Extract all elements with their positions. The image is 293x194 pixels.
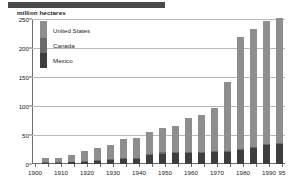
x-tick-mark: [74, 164, 75, 167]
x-tick-label: 1920: [80, 169, 94, 176]
x-tick-mark: [243, 164, 244, 167]
x-tick-mark: [152, 164, 153, 167]
x-tick-mark: [48, 164, 49, 167]
bar-segment-mexico: [211, 152, 218, 164]
x-tick-mark: [217, 164, 218, 167]
bar-1930: [107, 145, 114, 164]
x-tick-label: 1910: [54, 169, 68, 176]
x-tick-label: 1990: [262, 169, 276, 176]
bar-segment-united-states: [133, 138, 140, 158]
bar-segment-united-states: [107, 145, 114, 159]
x-tick-label: 95: [279, 169, 286, 176]
y-tick-label: 150: [7, 74, 29, 81]
bar-segment-united-states: [198, 115, 205, 152]
bar-segment-united-states: [263, 21, 270, 145]
bar-segment-united-states: [237, 37, 244, 149]
bar-1950: [159, 128, 166, 164]
bar-segment-mexico: [159, 154, 166, 164]
x-tick-mark: [269, 164, 270, 167]
bar-1915: [68, 155, 75, 164]
y-tick-label: 100: [7, 103, 29, 110]
bar-1945: [146, 132, 153, 164]
x-tick-label: 1970: [210, 169, 224, 176]
bar-segment-mexico: [276, 144, 283, 164]
bar-1990: [263, 21, 270, 164]
bar-1925: [94, 148, 101, 164]
x-tick-mark: [100, 164, 101, 167]
legend-swatch-mexico: [40, 53, 47, 68]
x-tick-mark: [139, 164, 140, 167]
bar-segment-united-states: [94, 148, 101, 160]
legend-label-united-states: United States: [53, 27, 90, 34]
bar-segment-united-states: [146, 132, 153, 154]
x-tick-mark: [35, 164, 36, 167]
bar-1935: [120, 139, 127, 164]
bar-segment-mexico: [146, 155, 153, 164]
bar-1985: [250, 29, 257, 164]
y-tick-label: 0: [7, 161, 29, 168]
x-tick-label: 1930: [106, 169, 120, 176]
bar-1975: [224, 82, 231, 164]
x-tick-mark: [191, 164, 192, 167]
x-tick-mark: [61, 164, 62, 167]
x-tick-label: 1950: [158, 169, 172, 176]
bar-segment-mexico: [198, 153, 205, 164]
legend-swatch-canada: [40, 38, 47, 53]
x-tick-mark: [230, 164, 231, 167]
x-tick-mark: [256, 164, 257, 167]
x-tick-mark: [282, 164, 283, 167]
bar-1970: [211, 108, 218, 164]
x-tick-mark: [126, 164, 127, 167]
x-tick-label: 1980: [236, 169, 250, 176]
x-tick-mark: [165, 164, 166, 167]
x-tick-label: 1900: [28, 169, 42, 176]
bar-segment-united-states: [81, 151, 88, 160]
bar-1980: [237, 37, 244, 164]
x-tick-mark: [178, 164, 179, 167]
y-tick-label: 50: [7, 132, 29, 139]
legend-swatch-united-states: [40, 21, 47, 38]
bar-segment-mexico: [250, 148, 257, 164]
bar-segment-united-states: [159, 128, 166, 152]
bar-segment-united-states: [276, 18, 283, 142]
x-tick-mark: [113, 164, 114, 167]
y-tick-label: 250: [7, 16, 29, 23]
legend-swatch-bar: [40, 21, 47, 68]
bar-segment-mexico: [237, 150, 244, 164]
x-tick-label: 1960: [184, 169, 198, 176]
x-tick-mark: [204, 164, 205, 167]
legend-label-mexico: Mexico: [53, 57, 73, 64]
bar-1960: [185, 118, 192, 164]
legend-label-canada: Canada: [53, 42, 75, 49]
bar-segment-united-states: [120, 139, 127, 158]
title-block: [8, 2, 165, 8]
x-tick-label: 1940: [132, 169, 146, 176]
bar-segment-united-states: [211, 108, 218, 151]
bar-1995: [276, 18, 283, 164]
bar-1920: [81, 151, 88, 164]
bar-1955: [172, 126, 179, 164]
bar-segment-mexico: [172, 153, 179, 164]
bar-1965: [198, 115, 205, 164]
bar-1940: [133, 138, 140, 164]
chart-legend: United States Canada Mexico: [40, 21, 126, 68]
bar-segment-mexico: [263, 145, 270, 164]
y-tick-label: 200: [7, 45, 29, 52]
bar-segment-mexico: [185, 153, 192, 164]
x-tick-mark: [87, 164, 88, 167]
bar-segment-united-states: [185, 118, 192, 152]
bar-segment-united-states: [224, 82, 231, 151]
bar-segment-united-states: [250, 29, 257, 146]
bar-segment-united-states: [172, 126, 179, 152]
bar-segment-mexico: [224, 152, 231, 164]
